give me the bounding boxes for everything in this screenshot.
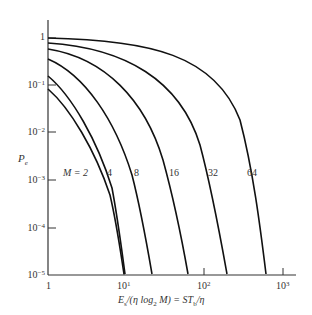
- curve-label-m64: 64: [247, 168, 257, 178]
- y-axis-title: Pe: [18, 153, 28, 168]
- plot-area: [0, 0, 312, 315]
- x-ticks: [124, 268, 283, 275]
- y-ticks: [48, 38, 56, 228]
- curve-label-m2: M = 2: [63, 168, 88, 178]
- y-tick-label-1e-4: 10−4: [5, 223, 45, 233]
- x-tick-label-1e1: 101: [117, 281, 131, 291]
- y-tick-label-1: 1: [5, 32, 45, 42]
- x-axis-title: Es/(η log2 M) = STb/η: [118, 295, 204, 309]
- x-tick-label-1e3: 103: [276, 281, 290, 291]
- x-tick-label-1e2: 102: [197, 281, 211, 291]
- curve-label-m8: 8: [134, 168, 139, 178]
- curve-label-m4: 4: [107, 168, 112, 178]
- curve-label-m32: 32: [208, 168, 218, 178]
- curve-m32: [48, 43, 227, 274]
- curve-m2: [48, 89, 124, 274]
- curve-m64: [48, 38, 266, 274]
- y-tick-label-1e-3: 10−3: [5, 175, 45, 185]
- y-tick-label-1e-2: 10−2: [5, 127, 45, 137]
- x-tick-label-1: 1: [46, 281, 51, 291]
- y-tick-label-1e-5: 10−5: [5, 270, 45, 280]
- y-tick-label-1e-1: 10−1: [5, 80, 45, 90]
- curve-label-m16: 16: [169, 168, 179, 178]
